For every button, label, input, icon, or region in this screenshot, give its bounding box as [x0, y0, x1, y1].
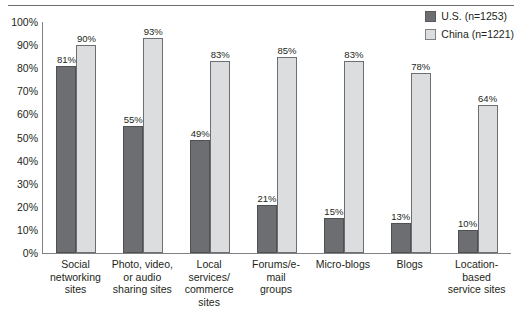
bar-pair: 55%93% [110, 22, 177, 253]
bar-value-label: 85% [277, 45, 296, 56]
bar-pair: 49%83% [177, 22, 244, 253]
bar-us: 10% [458, 230, 478, 253]
bar-china: 83% [344, 61, 364, 253]
bar-value-label: 81% [57, 54, 76, 65]
bar-pair: 21%85% [244, 22, 311, 253]
plot-area: 81%90%55%93%49%83%21%85%15%83%13%78%10%6… [42, 22, 511, 254]
bar-value-label: 78% [411, 61, 430, 72]
x-axis-label-line: Location-based [444, 258, 509, 283]
x-axis-label-line: Micro-blogs [310, 258, 375, 271]
x-axis: SocialnetworkingsitesPhoto, video,or aud… [42, 258, 510, 308]
x-axis-label-line: commerce [177, 283, 242, 296]
bar-group: 13%78% [377, 0, 444, 253]
y-axis-tick-label: 30% [17, 178, 38, 189]
bar-us: 49% [190, 140, 210, 253]
bar-us: 21% [257, 205, 277, 254]
y-axis-tick-label: 80% [17, 63, 38, 74]
bar-value-label: 15% [324, 206, 343, 217]
bar-china: 83% [210, 61, 230, 253]
bar-group: 21%85% [244, 0, 311, 253]
y-axis-tick-label: 10% [17, 224, 38, 235]
bar-value-label: 13% [391, 211, 410, 222]
x-axis-label-line: Local [177, 258, 242, 271]
y-axis-tick-label: 60% [17, 109, 38, 120]
y-axis-tick-label: 90% [17, 40, 38, 51]
bar-value-label: 83% [344, 49, 363, 60]
bar-value-label: 64% [478, 93, 497, 104]
bar-group: 49%83% [177, 0, 244, 253]
x-axis-label-line: or audio [110, 271, 175, 284]
x-axis-label-line: sharing sites [110, 283, 175, 296]
x-axis-label-line: Blogs [377, 258, 442, 271]
bar-china: 93% [143, 38, 163, 253]
bar-china: 78% [411, 73, 431, 253]
bar-value-label: 49% [191, 128, 210, 139]
x-axis-category-label: Socialnetworkingsites [42, 258, 109, 308]
y-axis-tick-label: 20% [17, 201, 38, 212]
bar-groups: 81%90%55%93%49%83%21%85%15%83%13%78%10%6… [43, 0, 511, 253]
bar-group: 55%93% [110, 0, 177, 253]
bar-pair: 15%83% [310, 22, 377, 253]
bar-group: 81%90% [43, 0, 110, 253]
bar-china: 64% [478, 105, 498, 253]
bar-value-label: 93% [144, 26, 163, 37]
bar-us: 15% [324, 218, 344, 253]
bar-us: 13% [391, 223, 411, 253]
x-axis-label-line: service sites [444, 283, 509, 296]
bar-pair: 10%64% [444, 22, 511, 253]
bar-value-label: 10% [458, 218, 477, 229]
y-axis-tick-label: 70% [17, 86, 38, 97]
bar-us: 81% [56, 66, 76, 253]
y-axis-tick-label: 50% [17, 132, 38, 143]
x-axis-label-line: sites [43, 283, 108, 296]
x-axis-label-line: groups [244, 283, 309, 296]
x-axis-label-line: sites [177, 296, 242, 309]
bar-pair: 13%78% [377, 22, 444, 253]
x-axis-category-label: Micro-blogs [309, 258, 376, 308]
x-axis-label-line: networking [43, 271, 108, 284]
bar-value-label: 83% [211, 49, 230, 60]
y-axis-tick-label: 40% [17, 155, 38, 166]
x-axis-category-label: Localservices/commercesites [176, 258, 243, 308]
bar-china: 85% [277, 57, 297, 253]
x-axis-category-label: Location-basedservice sites [443, 258, 510, 308]
bar-group: 10%64% [444, 0, 511, 253]
x-axis-category-label: Forums/e-mailgroups [243, 258, 310, 308]
bar-group: 15%83% [310, 0, 377, 253]
bar-pair: 81%90% [43, 22, 110, 253]
bar-value-label: 21% [257, 193, 276, 204]
x-axis-category-label: Photo, video,or audiosharing sites [109, 258, 176, 308]
y-axis-tick-label: 100% [11, 17, 38, 28]
x-axis-label-line: services/ [177, 271, 242, 284]
bar-us: 55% [123, 126, 143, 253]
y-axis: 0%10%20%30%40%50%60%70%80%90%100% [0, 22, 38, 253]
x-axis-label-line: Forums/e-mail [244, 258, 309, 283]
y-axis-tick-label: 0% [23, 248, 38, 259]
bar-value-label: 55% [124, 114, 143, 125]
bar-china: 90% [76, 45, 96, 253]
x-axis-label-line: Photo, video, [110, 258, 175, 271]
bar-value-label: 90% [77, 33, 96, 44]
x-axis-label-line: Social [43, 258, 108, 271]
bar-chart-figure: U.S. (n=1253)China (n=1221) 0%10%20%30%4… [0, 0, 522, 321]
x-axis-category-label: Blogs [376, 258, 443, 308]
